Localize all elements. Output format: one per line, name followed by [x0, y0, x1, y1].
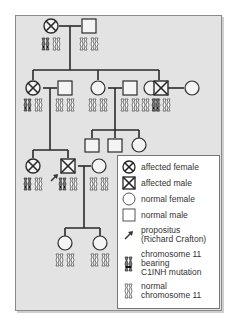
mutant-chromosome-icon: [122, 256, 136, 272]
legend-item-propositus: propositus (Richard Crafton): [122, 226, 206, 244]
gen3-normal-female-spouse: [90, 159, 108, 190]
normal-female-icon: [122, 192, 136, 206]
gen3-normal-female: [132, 138, 146, 152]
gen4-normal-female-2: [91, 236, 109, 266]
legend: affected female affected male normal fem…: [117, 155, 220, 309]
gen3-normal-male-2: [108, 139, 122, 152]
affected-female-icon: [122, 160, 136, 174]
legend-item-normal-male: normal male: [122, 208, 188, 222]
propositus-arrow-icon: [51, 174, 58, 181]
gen2-normal-male-spouse: [56, 81, 74, 111]
gen3-affected-female: [24, 159, 42, 190]
legend-item-normal-female: normal female: [122, 192, 195, 206]
normal-male-icon: [122, 208, 136, 222]
gen2-normal-male-spouse-2: [121, 81, 139, 111]
gen4-normal-female-1: [56, 236, 74, 266]
legend-item-mutant-chromosome: chromosome 11 bearing C1INH mutation: [122, 250, 201, 277]
gen1-normal-male: [80, 19, 98, 50]
affected-male-icon: [122, 176, 136, 190]
gen2-affected-female: [24, 81, 42, 111]
legend-item-affected-male: affected male: [122, 176, 192, 190]
gen2-normal-female: [89, 81, 107, 111]
gen3-propositus-affected-male: [59, 159, 77, 190]
gen2-normal-female-spouse: [185, 81, 199, 95]
gen3-normal-male-1: [85, 139, 99, 152]
normal-chromosome-icon: [122, 283, 136, 299]
legend-item-normal-chromosome: normal chromosome 11: [122, 282, 201, 300]
gen2-affected-male: [152, 81, 170, 111]
gen1-affected-female: [42, 19, 60, 50]
arrow-icon: [122, 228, 136, 242]
legend-item-affected-female: affected female: [122, 160, 199, 174]
